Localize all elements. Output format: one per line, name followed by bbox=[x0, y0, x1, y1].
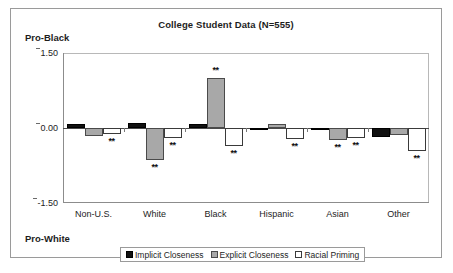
bar-implicit-asian bbox=[311, 128, 329, 130]
bar-implicit-other bbox=[372, 128, 390, 137]
legend-item-racial-priming: Racial Priming bbox=[295, 250, 359, 260]
bar-explicit-hispanic bbox=[268, 124, 286, 129]
significance-marker: ** bbox=[103, 137, 121, 145]
x-axis-label-hispanic: Hispanic bbox=[246, 209, 307, 219]
bar-explicit-black bbox=[207, 78, 225, 128]
significance-marker: ** bbox=[347, 141, 365, 149]
chart-frame: College Student Data (N=555) Pro-Black P… bbox=[10, 8, 442, 258]
x-axis-tick bbox=[246, 128, 247, 132]
bar-group-asian: ****Asian bbox=[307, 53, 368, 203]
legend-item-explicit-closeness: Explicit Closeness bbox=[211, 250, 289, 260]
x-axis-tick bbox=[368, 128, 369, 132]
bar-group-white: ****White bbox=[124, 53, 185, 203]
bar-priming-hispanic bbox=[286, 128, 304, 139]
bar-implicit-white bbox=[128, 123, 146, 128]
black-square-icon bbox=[126, 251, 133, 258]
legend-label-racial-priming: Racial Priming bbox=[304, 250, 359, 260]
significance-marker: ** bbox=[408, 154, 426, 162]
white-square-icon bbox=[295, 251, 302, 258]
bar-implicit-non-u-s bbox=[67, 124, 85, 129]
pro-black-axis-label: Pro-Black bbox=[25, 32, 69, 43]
x-axis-label-white: White bbox=[124, 209, 185, 219]
y-tick-label-min: -1.50 bbox=[37, 198, 58, 208]
bar-implicit-hispanic bbox=[250, 128, 268, 130]
chart-screenshot: College Student Data (N=555) Pro-Black P… bbox=[0, 0, 453, 273]
bar-priming-non-u-s bbox=[103, 128, 121, 134]
y-tick-label-max: 1.50 bbox=[40, 48, 58, 58]
bar-group-non-u-s: **Non-U.S. bbox=[63, 53, 124, 203]
bar-group-bars: **** bbox=[185, 53, 246, 203]
bar-explicit-other bbox=[390, 128, 408, 135]
x-axis-label-black: Black bbox=[185, 209, 246, 219]
bar-group-bars: ** bbox=[63, 53, 124, 203]
bar-priming-black bbox=[225, 128, 243, 146]
bar-group-other: **Other bbox=[368, 53, 429, 203]
x-axis-label-non-u-s: Non-U.S. bbox=[63, 209, 124, 219]
significance-marker: ** bbox=[286, 142, 304, 150]
x-axis-tick bbox=[185, 128, 186, 132]
bar-implicit-black bbox=[189, 124, 207, 128]
bar-explicit-asian bbox=[329, 128, 347, 140]
bar-group-hispanic: **Hispanic bbox=[246, 53, 307, 203]
bar-explicit-non-u-s bbox=[85, 128, 103, 136]
legend-label-implicit-closeness: Implicit Closeness bbox=[135, 250, 204, 260]
plot-area: 1.50 0.00 -1.50 **Non-U.S.****White****B… bbox=[63, 53, 429, 203]
bar-priming-white bbox=[164, 128, 182, 138]
x-axis-label-asian: Asian bbox=[307, 209, 368, 219]
x-axis-label-other: Other bbox=[368, 209, 429, 219]
significance-marker: ** bbox=[329, 143, 347, 151]
significance-marker: ** bbox=[225, 149, 243, 157]
significance-marker: ** bbox=[207, 66, 225, 74]
legend-item-implicit-closeness: Implicit Closeness bbox=[126, 250, 204, 260]
chart-legend: Implicit Closeness Explicit Closeness Ra… bbox=[120, 247, 365, 262]
bar-priming-other bbox=[408, 128, 426, 151]
bar-group-bars: **** bbox=[307, 53, 368, 203]
x-axis-tick bbox=[307, 128, 308, 132]
bar-explicit-white bbox=[146, 128, 164, 160]
bar-group-bars: ** bbox=[246, 53, 307, 203]
significance-marker: ** bbox=[146, 163, 164, 171]
chart-title: College Student Data (N=555) bbox=[11, 19, 441, 30]
x-axis-tick bbox=[124, 128, 125, 132]
legend-label-explicit-closeness: Explicit Closeness bbox=[220, 250, 289, 260]
significance-marker: ** bbox=[164, 141, 182, 149]
gray-square-icon bbox=[211, 251, 218, 258]
bar-group-bars: **** bbox=[124, 53, 185, 203]
bar-group-bars: ** bbox=[368, 53, 429, 203]
bar-group-black: ****Black bbox=[185, 53, 246, 203]
bar-priming-asian bbox=[347, 128, 365, 138]
y-tick-label-zero: 0.00 bbox=[40, 123, 58, 133]
pro-white-axis-label: Pro-White bbox=[25, 233, 70, 244]
